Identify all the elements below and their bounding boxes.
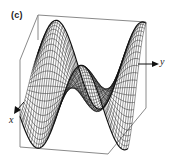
y-axis-label: y [160, 56, 164, 67]
x-axis-label: x [9, 114, 13, 125]
plot-box-frame [20, 15, 146, 154]
surface-plot-figure: (c) y x [0, 0, 176, 164]
panel-label: (c) [11, 10, 23, 20]
wireframe-surface-plot [0, 0, 176, 164]
y-axis-arrow [138, 61, 159, 67]
